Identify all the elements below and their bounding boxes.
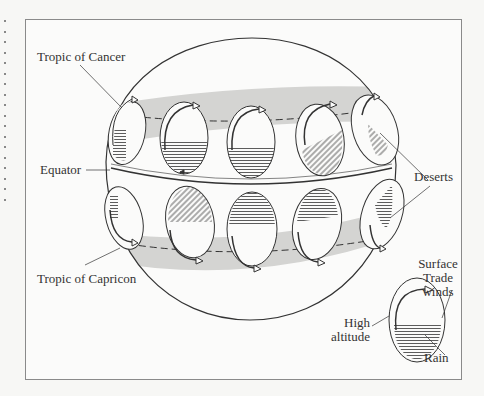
label-trade: Trade xyxy=(412,271,464,285)
cell-north-3 xyxy=(227,106,275,178)
label-surface: Surface xyxy=(412,257,464,271)
cell-north-2 xyxy=(160,102,208,174)
label-deserts: Deserts xyxy=(414,170,453,184)
label-high: High xyxy=(318,316,370,330)
label-winds: winds xyxy=(412,285,464,299)
label-equator: Equator xyxy=(40,163,81,177)
label-tropic-of-capricorn: Tropic of Capricon xyxy=(37,272,136,286)
label-rain: Rain xyxy=(424,351,449,365)
label-tropic-of-cancer: Tropic of Cancer xyxy=(37,50,125,64)
label-altitude: altitude xyxy=(306,330,370,344)
